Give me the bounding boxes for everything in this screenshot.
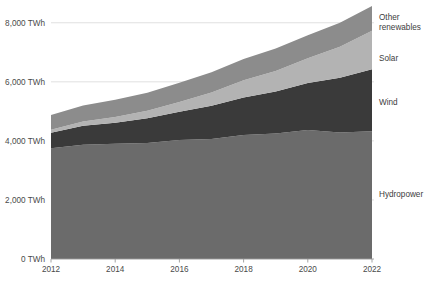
x-tick-label: 2018 — [234, 265, 253, 274]
y-axis-ticks: 0 TWh2,000 TWh4,000 TWh6,000 TWh8,000 TW… — [5, 19, 45, 264]
y-tick-label: 6,000 TWh — [5, 78, 45, 87]
series-areas — [51, 6, 372, 259]
series-label-other-renewables-line2: renewables — [379, 23, 421, 32]
series-label-wind: Wind — [379, 98, 398, 107]
series-label-other-renewables-line1: Other — [379, 13, 400, 22]
x-tick-label: 2020 — [299, 265, 318, 274]
y-tick-label: 8,000 TWh — [5, 19, 45, 28]
x-axis-ticks: 201220142016201820202022 — [42, 259, 382, 274]
x-tick-label: 2016 — [170, 265, 189, 274]
x-tick-label: 2014 — [106, 265, 125, 274]
x-tick-label: 2022 — [363, 265, 382, 274]
series-area-hydropower — [51, 130, 372, 259]
stacked-area-chart: 2012201420162018202020220 TWh2,000 TWh4,… — [0, 0, 435, 286]
y-tick-label: 0 TWh — [21, 255, 45, 264]
x-tick-label: 2012 — [42, 265, 61, 274]
y-tick-label: 4,000 TWh — [5, 137, 45, 146]
series-label-solar: Solar — [379, 54, 398, 63]
chart-canvas: 2012201420162018202020220 TWh2,000 TWh4,… — [0, 0, 435, 286]
series-labels: OtherrenewablesSolarWindHydropower — [379, 13, 423, 199]
y-tick-label: 2,000 TWh — [5, 196, 45, 205]
series-label-hydropower: Hydropower — [379, 190, 423, 199]
